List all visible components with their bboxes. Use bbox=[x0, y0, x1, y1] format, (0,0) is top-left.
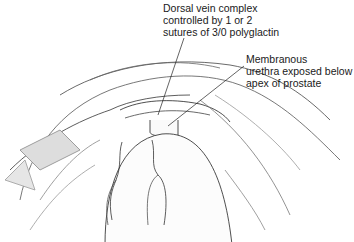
membranous-urethra-label: Membranous urethra exposed below apex of… bbox=[246, 53, 352, 89]
label-line: apex of prostate bbox=[246, 77, 352, 89]
surgical-illustration: Dorsal vein complex controlled by 1 or 2… bbox=[0, 0, 354, 242]
dorsal-vein-complex-label: Dorsal vein complex controlled by 1 or 2… bbox=[163, 2, 279, 38]
label-line: sutures of 3/0 polyglactin bbox=[163, 26, 279, 38]
label-line: Dorsal vein complex bbox=[163, 2, 279, 14]
label-line: controlled by 1 or 2 bbox=[163, 14, 279, 26]
label-line: Membranous bbox=[246, 53, 352, 65]
label-line: urethra exposed below bbox=[246, 65, 352, 77]
